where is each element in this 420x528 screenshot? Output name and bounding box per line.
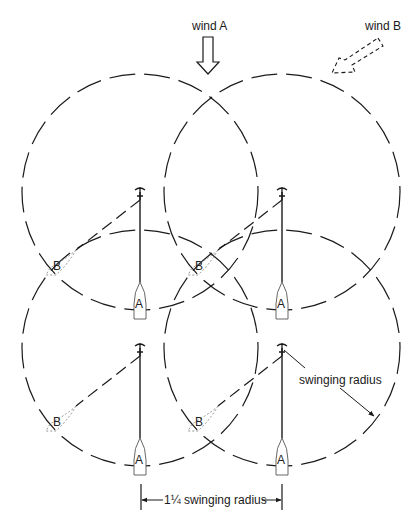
svg-text:A: A (277, 297, 285, 311)
svg-text:B: B (195, 415, 203, 429)
svg-text:A: A (277, 453, 285, 467)
svg-text:A: A (135, 453, 143, 467)
boat-group-bottom-left: A B (46, 343, 146, 475)
anchor-icon (135, 343, 145, 356)
spacing-label: 1¼ swinging radius (164, 493, 267, 507)
boat-group-bottom-right: A B (188, 343, 288, 475)
svg-text:A: A (135, 297, 143, 311)
swinging-radius-label: swinging radius (299, 373, 382, 387)
wind-a-arrow-icon (197, 37, 219, 74)
anchor-icon (135, 187, 145, 200)
boat-group-top-right: A B (188, 187, 288, 319)
wind-a-label: wind A (191, 19, 227, 33)
anchor-icon (277, 187, 287, 200)
wind-b-arrow-icon (332, 38, 383, 73)
spacing-dimension: 1¼ swinging radius (141, 484, 282, 510)
svg-text:B: B (195, 259, 203, 273)
wind-b-label: wind B (364, 19, 401, 33)
boat-group-top-left: A B (46, 187, 146, 319)
anchoring-diagram: wind A wind B A B A B A B (0, 0, 420, 528)
svg-text:B: B (53, 415, 61, 429)
anchor-icon (277, 343, 287, 356)
swinging-radius-annotation: swinging radius (284, 350, 382, 416)
svg-text:B: B (53, 259, 61, 273)
